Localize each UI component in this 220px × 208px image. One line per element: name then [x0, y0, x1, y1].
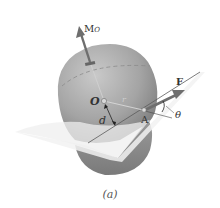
- force-label: F: [176, 77, 183, 87]
- origin-point-O: [101, 98, 106, 103]
- sphere-moment-illustration: [0, 0, 220, 208]
- distance-label: d: [99, 115, 106, 126]
- angle-theta-label: θ: [175, 110, 181, 120]
- point-A: [142, 108, 146, 112]
- position-vector-label: r: [122, 96, 126, 104]
- moment-label-main: M: [84, 23, 94, 34]
- moment-label: MO: [84, 24, 100, 34]
- figure-caption: (a): [0, 188, 220, 201]
- origin-label: O: [90, 96, 100, 107]
- moment-label-subscript: O: [94, 26, 100, 34]
- point-A-label: A: [141, 115, 148, 125]
